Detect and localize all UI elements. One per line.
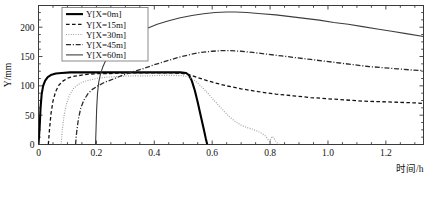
x-tick-label: 1.0 — [322, 148, 334, 158]
x-axis-title: 时间/h — [396, 163, 424, 174]
x-tick-label: 0.2 — [90, 148, 102, 158]
legend-label-4: Y[X=60m] — [86, 50, 126, 60]
series-line-1 — [48, 73, 423, 145]
series-line-2 — [61, 75, 279, 144]
x-tick-label: 0.6 — [206, 148, 218, 158]
y-axis-title: Y/mm — [3, 62, 13, 87]
series-line-3 — [76, 51, 424, 145]
legend-label-0: Y[X=0m] — [86, 9, 122, 19]
line-chart: 00.20.40.60.81.01.2050100150200时间/hY/mmY… — [0, 0, 434, 204]
x-tick-label: 1.2 — [380, 148, 392, 158]
x-tick-label: 0 — [36, 148, 41, 158]
series-line-0 — [39, 72, 208, 144]
y-tick-label: 100 — [20, 81, 35, 91]
y-tick-label: 200 — [20, 23, 35, 33]
x-tick-label: 0.8 — [264, 148, 276, 158]
y-tick-label: 50 — [25, 111, 35, 121]
x-tick-label: 0.4 — [148, 148, 160, 158]
legend-label-2: Y[X=30m] — [86, 30, 126, 40]
legend-label-3: Y[X=45m] — [86, 40, 126, 50]
y-tick-label: 150 — [20, 52, 35, 62]
chart-container: 00.20.40.60.81.01.2050100150200时间/hY/mmY… — [0, 0, 434, 204]
y-tick-label: 0 — [30, 140, 35, 150]
legend-label-1: Y[X=15m] — [86, 20, 126, 30]
